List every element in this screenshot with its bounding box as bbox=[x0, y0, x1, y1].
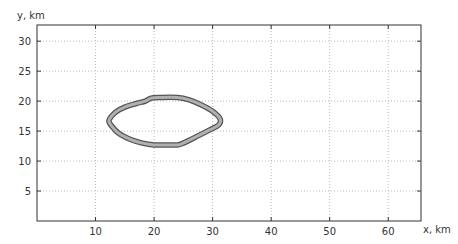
y-tick-label: 10 bbox=[18, 156, 31, 167]
contour-chart: 102030405060 51015202530 y, km x, km bbox=[0, 0, 458, 244]
y-tick-label: 25 bbox=[18, 66, 31, 77]
axis-ticks bbox=[37, 25, 421, 221]
contour-series bbox=[109, 97, 221, 145]
y-tick-label: 15 bbox=[18, 126, 31, 137]
x-tick-label: 20 bbox=[148, 226, 161, 237]
x-tick-label: 50 bbox=[323, 226, 336, 237]
x-tick-label: 40 bbox=[265, 226, 278, 237]
x-tick-label: 30 bbox=[206, 226, 219, 237]
x-tick-label: 60 bbox=[382, 226, 395, 237]
y-tick-label: 20 bbox=[18, 96, 31, 107]
y-axis-label: y, km bbox=[17, 10, 45, 21]
y-tick-label: 30 bbox=[18, 36, 31, 47]
y-tick-label: 5 bbox=[25, 186, 31, 197]
x-tick-label: 10 bbox=[89, 226, 102, 237]
x-tick-labels: 102030405060 bbox=[89, 226, 394, 237]
y-tick-labels: 51015202530 bbox=[18, 36, 31, 197]
axes-frame bbox=[37, 25, 421, 221]
grid-lines bbox=[37, 25, 421, 221]
x-axis-label: x, km bbox=[423, 224, 451, 235]
